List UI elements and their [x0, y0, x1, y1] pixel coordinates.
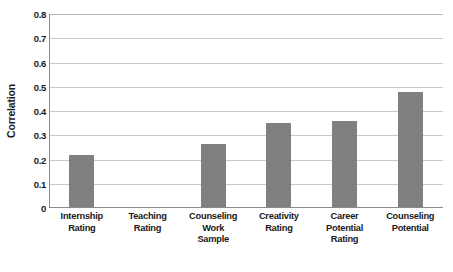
bar-slot — [312, 14, 378, 208]
bar-slot — [246, 14, 312, 208]
x-axis-category-label: CreativityRating — [246, 211, 312, 234]
x-axis-category-label: CounselingPotential — [377, 211, 443, 234]
x-axis-category-label-line: Rating — [116, 223, 180, 235]
x-axis-category-label-line: Internship — [50, 211, 114, 223]
x-axis-category-label-line: Counseling — [181, 211, 245, 223]
x-axis-category-label-line: Teaching — [116, 211, 180, 223]
y-axis-tick-label: 0.4 — [20, 106, 46, 117]
x-axis-category-label-line: Rating — [313, 234, 377, 246]
x-axis-category-label: CareerPotentialRating — [312, 211, 378, 246]
y-axis-title-label: Correlation — [5, 84, 17, 138]
y-axis-tick-label: 0.7 — [20, 33, 46, 44]
x-axis-category-label: TeachingRating — [115, 211, 181, 234]
x-axis-line — [49, 207, 443, 209]
bar-slot — [49, 14, 115, 208]
y-axis-tick-label: 0 — [20, 203, 46, 214]
x-axis-category-label-line: Rating — [50, 223, 114, 235]
y-axis-tick-label: 0.8 — [20, 9, 46, 20]
bar-slot — [377, 14, 443, 208]
y-axis-tick-label: 0.3 — [20, 130, 46, 141]
y-axis-tick-label: 0.6 — [20, 57, 46, 68]
bars-container — [49, 14, 443, 208]
x-axis-category-label-line: Rating — [247, 223, 311, 235]
x-axis-category-label-line: Sample — [181, 234, 245, 246]
bar-slot — [180, 14, 246, 208]
plot-area — [49, 14, 443, 208]
x-axis-category-label-line: Potential — [378, 223, 442, 235]
y-axis-tick-labels: 0.80.70.60.50.40.30.20.10 — [20, 0, 46, 272]
bar[interactable] — [266, 123, 291, 208]
bar[interactable] — [398, 92, 423, 208]
bar-slot — [115, 14, 181, 208]
x-axis-category-label-line: Work — [181, 223, 245, 235]
bar[interactable] — [332, 121, 357, 208]
bar[interactable] — [69, 155, 94, 208]
x-axis-category-labels: InternshipRatingTeachingRatingCounseling… — [49, 211, 443, 246]
bar[interactable] — [201, 144, 226, 208]
bar-chart: Correlation 0.80.70.60.50.40.30.20.10 In… — [0, 0, 453, 272]
x-axis-category-label-line: Potential — [313, 223, 377, 235]
x-axis-category-label-line: Creativity — [247, 211, 311, 223]
y-axis-tick-label: 0.5 — [20, 81, 46, 92]
x-axis-category-label: InternshipRating — [49, 211, 115, 234]
y-axis-tick-label: 0.2 — [20, 154, 46, 165]
x-axis-category-label-line: Career — [313, 211, 377, 223]
x-axis-category-label: CounselingWorkSample — [180, 211, 246, 246]
y-axis-title: Correlation — [2, 14, 20, 208]
x-axis-category-label-line: Counseling — [378, 211, 442, 223]
y-axis-tick-label: 0.1 — [20, 178, 46, 189]
